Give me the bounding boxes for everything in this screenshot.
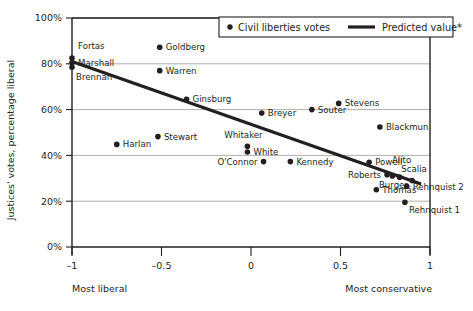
- data-point-label: Stewart: [164, 132, 198, 142]
- data-point: [288, 159, 294, 165]
- data-point: [259, 110, 265, 116]
- data-point: [390, 173, 396, 179]
- y-tick-label: 80%: [41, 58, 62, 69]
- data-point-label: Fortas: [78, 41, 105, 51]
- data-point: [384, 172, 390, 178]
- data-point: [245, 149, 251, 155]
- data-point-label: Scalia: [401, 164, 427, 174]
- data-point-label: White: [253, 147, 278, 157]
- legend-point-marker: [227, 24, 232, 29]
- chart-legend: Civil liberties votes Predicted value*: [219, 17, 462, 37]
- y-tick-labels: 0%20%40%60%80%100%: [35, 12, 62, 252]
- data-point: [69, 64, 75, 70]
- scatter-chart: –1–0.500.51 0%20%40%60%80%100% Justices'…: [0, 0, 473, 311]
- y-tick-label: 40%: [41, 150, 62, 161]
- y-tick-label: 100%: [35, 12, 62, 23]
- y-tick-label: 60%: [41, 104, 62, 115]
- x-tick-label: 1: [427, 260, 433, 271]
- data-point-label: Rehnquist 2: [413, 182, 464, 192]
- data-point-label: Brennan: [76, 72, 112, 82]
- data-point: [157, 45, 163, 51]
- data-point-label: Rehnquist 1: [409, 205, 460, 215]
- data-point-labels: FortasMarshallBrennanGoldbergWarrenGinsb…: [76, 41, 464, 215]
- data-point: [309, 107, 315, 113]
- data-point-label: Kennedy: [296, 157, 333, 167]
- x-tick-label: –1: [67, 260, 78, 271]
- data-point-label: Warren: [166, 66, 197, 76]
- x-axis-right-note: Most conservative: [345, 283, 432, 294]
- data-point: [155, 134, 161, 140]
- data-point-label: Harlan: [123, 139, 151, 149]
- data-point-label: Goldberg: [166, 42, 205, 52]
- y-axis-label: Justices' votes, percentage liberal: [5, 60, 16, 221]
- legend-label-predicted: Predicted value*: [382, 22, 462, 33]
- y-tick-label: 20%: [41, 196, 62, 207]
- data-point-label: Thomas: [381, 185, 417, 195]
- x-tick-label: 0.5: [333, 260, 348, 271]
- x-tick-label: –0.5: [152, 260, 172, 271]
- data-point: [366, 159, 372, 165]
- chart-canvas: –1–0.500.51 0%20%40%60%80%100% Justices'…: [0, 0, 473, 311]
- data-point-label: Blackmun: [386, 122, 429, 132]
- data-point-label: Souter: [318, 105, 347, 115]
- data-point-label: Stevens: [345, 98, 380, 108]
- data-point: [377, 124, 383, 130]
- data-point: [402, 200, 408, 206]
- y-tick-label: 0%: [47, 241, 62, 252]
- data-points: [69, 45, 415, 206]
- legend-label-votes: Civil liberties votes: [238, 22, 330, 33]
- data-point: [261, 159, 267, 165]
- data-point-label: Ginsburg: [193, 94, 232, 104]
- data-point: [157, 68, 163, 74]
- data-point: [184, 96, 190, 102]
- data-point-label: Marshall: [78, 58, 114, 68]
- x-tick-label: 0: [248, 260, 254, 271]
- data-point: [114, 142, 120, 148]
- data-point-label: Roberts: [348, 170, 381, 180]
- x-axis-left-note: Most liberal: [72, 283, 127, 294]
- data-point-label: Breyer: [268, 108, 297, 118]
- x-tick-labels: –1–0.500.51: [67, 260, 433, 271]
- data-point-label: O'Connor: [217, 157, 258, 167]
- data-point-label: Whitaker: [224, 130, 263, 140]
- data-point: [245, 143, 251, 149]
